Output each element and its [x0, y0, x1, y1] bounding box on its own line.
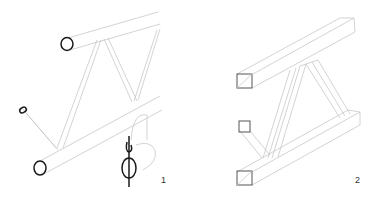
bottom-chord-section-circle [34, 161, 46, 175]
stub-section-square [239, 121, 250, 132]
round-truss-panel [19, 12, 162, 187]
panel-label-1: 1 [161, 175, 166, 185]
bottom-chord-square [237, 110, 360, 185]
top-chord-round [68, 12, 160, 50]
panel-label-2: 2 [355, 175, 360, 185]
stub-diagonal-square [240, 131, 270, 158]
top-chord-section-circle [61, 38, 73, 51]
square-truss-panel [237, 18, 360, 185]
diameter-symbol-icon [122, 136, 136, 187]
bottom-chord-round [40, 96, 162, 175]
stub-diagonal-round [22, 108, 58, 150]
truss-diagram [0, 0, 376, 199]
top-chord-square [237, 18, 355, 88]
